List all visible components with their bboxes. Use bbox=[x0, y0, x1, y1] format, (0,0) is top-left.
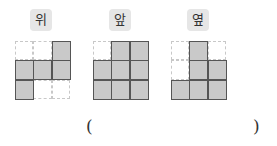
filled-cell bbox=[93, 60, 112, 80]
answer-blank[interactable] bbox=[100, 118, 250, 138]
filled-cell bbox=[189, 60, 208, 80]
empty-cell bbox=[33, 41, 51, 60]
filled-cell bbox=[93, 80, 112, 100]
empty-cell bbox=[171, 60, 189, 79]
grid-top-view bbox=[15, 41, 70, 99]
filled-cell bbox=[111, 60, 130, 80]
empty-cell bbox=[93, 41, 111, 60]
filled-cell bbox=[52, 60, 71, 80]
label-front-view: 앞 bbox=[109, 9, 131, 31]
empty-cell bbox=[52, 80, 70, 99]
empty-cell bbox=[33, 80, 51, 99]
label-top-view: 위 bbox=[30, 9, 52, 31]
filled-cell bbox=[171, 80, 190, 100]
filled-cell bbox=[130, 60, 149, 80]
empty-cell bbox=[15, 41, 33, 60]
empty-cell bbox=[171, 41, 189, 60]
grid-front-view bbox=[93, 41, 148, 99]
answer-close-paren: ) bbox=[253, 116, 260, 136]
filled-cell bbox=[208, 60, 227, 80]
label-side-view: 옆 bbox=[187, 9, 209, 31]
filled-cell bbox=[111, 80, 130, 100]
filled-cell bbox=[52, 41, 71, 61]
filled-cell bbox=[189, 41, 208, 61]
filled-cell bbox=[189, 80, 208, 100]
filled-cell bbox=[208, 80, 227, 100]
filled-cell bbox=[15, 60, 34, 80]
answer-open-paren: ( bbox=[86, 116, 93, 136]
filled-cell bbox=[130, 80, 149, 100]
grid-side-view bbox=[171, 41, 226, 99]
filled-cell bbox=[15, 80, 34, 100]
filled-cell bbox=[130, 41, 149, 61]
filled-cell bbox=[33, 60, 52, 80]
empty-cell bbox=[208, 41, 226, 60]
filled-cell bbox=[111, 41, 130, 61]
